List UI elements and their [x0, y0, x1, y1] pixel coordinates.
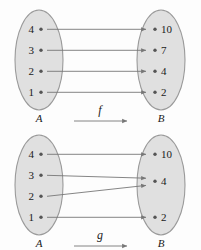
domain-dot [39, 195, 42, 198]
set-b-label: B [158, 237, 165, 249]
domain-dot [39, 70, 42, 73]
domain-element-label: 2 [29, 190, 35, 202]
mapping-diagram-f: 4 3 2 1 10 7 4 2 A B f [0, 0, 201, 125]
domain-dot [39, 49, 42, 52]
set-a-label: A [35, 237, 43, 249]
domain-element-label: 4 [29, 23, 35, 35]
domain-element-label: 3 [29, 169, 35, 181]
domain-element-label: 2 [29, 65, 35, 77]
codomain-element-label: 7 [161, 44, 167, 56]
domain-dot [39, 91, 42, 94]
codomain-dot [153, 70, 156, 73]
codomain-dot [153, 153, 156, 156]
domain-element-label: 1 [29, 211, 35, 223]
function-label-g: g [97, 228, 103, 242]
domain-dot [39, 174, 42, 177]
set-b-label: B [158, 112, 165, 124]
set-a-ellipse-f [15, 10, 63, 110]
set-a-ellipse-g [15, 135, 63, 235]
domain-element-label: 1 [29, 86, 35, 98]
codomain-element-label: 4 [161, 175, 167, 187]
codomain-element-label: 4 [161, 65, 167, 77]
function-label-f: f [98, 103, 103, 117]
domain-element-label: 3 [29, 44, 35, 56]
codomain-dot [153, 91, 156, 94]
domain-element-label: 4 [29, 148, 35, 160]
codomain-element-label: 2 [161, 211, 167, 223]
set-a-label: A [35, 112, 43, 124]
codomain-element-label: 2 [161, 86, 167, 98]
mapping-diagram-g: 4 3 2 1 10 4 2 A B g [0, 125, 201, 250]
codomain-element-label: 10 [161, 148, 173, 160]
codomain-dot [153, 28, 156, 31]
domain-dot [39, 28, 42, 31]
codomain-dot [153, 180, 156, 183]
domain-dot [39, 216, 42, 219]
codomain-dot [153, 216, 156, 219]
codomain-element-label: 10 [161, 23, 173, 35]
codomain-dot [153, 49, 156, 52]
domain-dot [39, 153, 42, 156]
